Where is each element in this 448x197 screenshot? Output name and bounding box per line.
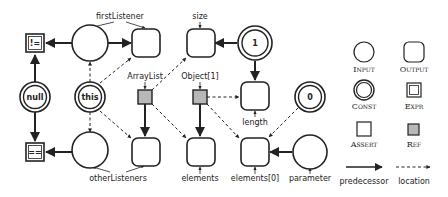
label-firstlistener: firstListener [96, 12, 145, 21]
legend-ref-icon [408, 124, 419, 135]
output-node-size [187, 29, 215, 57]
input-node-parameter [293, 135, 327, 169]
output-node-elements0 [241, 138, 269, 166]
legend-input-icon [354, 42, 374, 62]
const-node-one: 1 [238, 26, 272, 60]
svg-text:1: 1 [252, 39, 258, 48]
ref-node-arraylist [138, 90, 152, 104]
svg-text:Expr: Expr [405, 102, 424, 111]
label-otherlisteners: otherListeners [89, 174, 147, 183]
svg-text:this: this [81, 93, 98, 102]
svg-text:Const: Const [352, 102, 376, 111]
legend: Input Output Const Expr Assert Ref prede… [340, 42, 430, 186]
svg-text:!=: != [30, 39, 40, 48]
svg-text:Input: Input [353, 65, 374, 74]
label-elements0: elements[0] [231, 174, 280, 183]
svg-text:==: == [28, 148, 41, 157]
svg-text:predecessor: predecessor [340, 177, 390, 186]
const-node-this: this [75, 82, 105, 112]
expr-node-eq: == [26, 143, 44, 161]
output-node-firstlistener [132, 29, 160, 57]
svg-text:Assert: Assert [350, 140, 378, 149]
label-length: length [242, 118, 268, 127]
legend-output-icon [404, 42, 424, 62]
input-node-bottom [72, 132, 108, 168]
label-parameter: parameter [289, 174, 332, 183]
ref-node-object1 [193, 90, 207, 104]
svg-text:Ref: Ref [407, 140, 422, 149]
const-node-null: null [20, 82, 50, 112]
diagram-canvas: != == null this 1 0 firstListener [0, 0, 448, 197]
label-object1: Object[1] [181, 72, 218, 81]
input-node-top [72, 25, 108, 61]
expr-node-neq: != [26, 34, 44, 52]
output-node-elements [187, 138, 215, 166]
output-node-length [241, 82, 269, 110]
const-node-zero: 0 [295, 82, 325, 112]
svg-text:Output: Output [400, 65, 429, 74]
legend-assert-icon [357, 122, 371, 136]
output-node-otherlisteners [132, 138, 160, 166]
label-size: size [192, 12, 208, 21]
label-arraylist: ArrayList [127, 72, 163, 81]
svg-text:0: 0 [307, 93, 313, 102]
label-elements: elements [181, 174, 218, 183]
svg-text:location: location [398, 177, 430, 186]
svg-text:null: null [27, 93, 44, 102]
